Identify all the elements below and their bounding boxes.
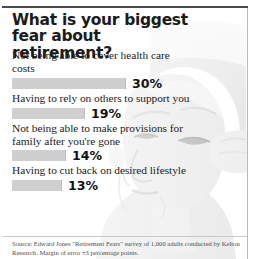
bar-line: 13% [12,179,192,192]
bar-row: Having to cut back on desired lifestyle … [12,164,192,192]
bar-chart: Not being able to cover health care cost… [12,49,192,194]
bar-value: 13% [68,178,98,193]
bar-label: Not being able to make provisions for fa… [12,122,192,148]
bar-label: Not being able to cover health care cost… [12,49,192,75]
bar-fill [12,108,85,119]
bar-label: Having to rely on others to support you [12,92,192,105]
bar-row: Not being able to make provisions for fa… [12,122,192,163]
retirement-fear-infographic: What is your biggest fear about retireme… [0,0,254,259]
bar-row: Having to rely on others to support you … [12,92,192,120]
bar-label: Having to cut back on desired lifestyle [12,164,192,177]
bar-value: 30% [132,76,162,91]
right-border [247,8,248,259]
bar-line: 30% [12,77,192,90]
bar-fill [12,180,62,191]
top-divider [2,6,248,8]
bottom-divider [2,236,247,237]
bar-fill [12,78,126,89]
bar-line: 19% [12,107,192,120]
bar-fill [12,150,66,161]
bar-value: 19% [91,106,121,121]
bar-line: 14% [12,149,192,162]
source-note: Source: Edward Jones "Retirement Fears" … [12,240,240,257]
bar-value: 14% [72,148,102,163]
bar-row: Not being able to cover health care cost… [12,49,192,90]
